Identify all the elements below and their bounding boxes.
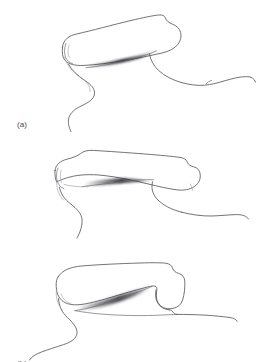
panel-c-body-outline: [56, 263, 185, 309]
panel-c-hook-notch: [169, 310, 177, 315]
panel-c-right-long-sweep: [177, 314, 237, 321]
panel-c-left-sinuous-contour: [30, 299, 78, 360]
panel-a-right-notch: [206, 80, 212, 84]
panel-a-drawing: [0, 0, 261, 134]
panel-b-right-long-sweep: [182, 212, 249, 219]
panel-b-body-outline: [55, 150, 200, 190]
figure-root: (a): [0, 0, 261, 362]
figure-panel-c: (c): [0, 246, 261, 362]
panel-a-right-long-sweep: [182, 77, 256, 86]
panel-a-left-sinuous-contour: [68, 64, 94, 131]
panel-c-drawing: [0, 246, 261, 362]
figure-panel-a: (a): [0, 0, 261, 134]
panel-c-lower-lip: [75, 311, 177, 316]
panel-a-right-descending-contour: [150, 54, 182, 83]
panel-b-drawing: [0, 134, 261, 246]
figure-panel-b: (b): [0, 134, 261, 246]
panel-a-body-outline: [62, 15, 181, 66]
panel-b-left-sinuous-contour: [60, 187, 83, 238]
panel-label-a: (a): [17, 121, 27, 129]
